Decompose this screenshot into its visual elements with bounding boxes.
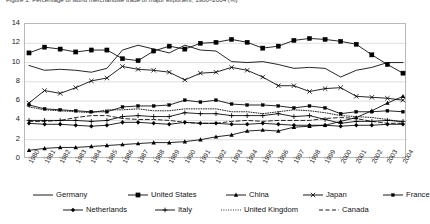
data-point-marker [74,85,78,89]
data-point-marker [58,122,62,127]
x-axis: 1980198119821983198419851986198719881989… [0,158,416,188]
legend-line-sample [225,190,247,200]
data-point-marker [385,122,389,127]
plot-area [24,23,406,158]
data-point-marker [74,50,78,54]
data-point-marker [355,110,358,113]
data-point-marker [401,94,405,98]
y-tick-label: 6 [2,96,20,104]
data-point-marker [229,122,233,127]
data-point-marker [198,41,202,45]
data-point-marker [308,104,311,107]
y-tick-label: 12 [2,38,20,46]
legend-item-japan[interactable]: Japan [302,188,347,202]
data-point-marker [339,112,342,115]
legend-label: Italy [178,205,192,215]
legend-row-2: NetherlandsItalyUnited KingdomCanada [0,203,416,217]
legend-line-sample [302,190,324,200]
data-point-marker [74,123,78,128]
legend-item-france[interactable]: France [382,188,430,202]
data-point-marker [276,122,280,127]
legend-label: Japan [326,190,347,200]
data-point-marker [89,124,93,129]
y-tick-label: 14 [2,19,20,27]
data-point-marker [245,40,249,44]
data-point-marker [323,117,328,122]
data-point-marker [229,37,233,41]
data-point-marker [307,113,312,118]
data-point-marker [245,113,250,118]
y-tick-label: 4 [2,115,20,123]
data-point-marker [339,39,343,43]
data-point-marker [245,122,249,127]
plot-svg [25,24,407,159]
data-point-marker [323,37,327,41]
data-point-marker [167,122,171,127]
data-point-marker [401,71,405,75]
legend-line-sample [127,190,149,200]
data-point-marker [354,123,358,128]
data-point-marker [261,104,264,107]
data-point-marker [292,38,296,42]
data-point-marker [307,36,311,40]
data-point-marker [214,121,218,126]
data-point-marker [120,57,124,61]
data-point-marker [182,110,187,115]
legend-line-sample [154,205,176,215]
data-point-marker [339,124,343,129]
data-point-marker [136,113,141,118]
data-point-marker [105,123,109,128]
data-point-marker [230,103,233,106]
data-point-marker [386,109,389,112]
data-point-marker [261,75,265,79]
legend-item-united-states[interactable]: United States [127,188,197,202]
data-point-marker [105,110,108,113]
y-tick-label: 2 [2,135,20,143]
data-point-marker [42,45,46,49]
legend-item-netherlands[interactable]: Netherlands [62,203,127,217]
data-point-marker [260,113,265,118]
data-point-marker [402,110,405,113]
legend-label: Netherlands [86,205,127,215]
series-united-states [27,36,405,75]
legend-item-canada[interactable]: Canada [318,203,369,217]
legend-item-germany[interactable]: Germany [32,188,87,202]
data-point-marker [370,53,374,57]
y-tick-label: 10 [2,58,20,66]
data-point-marker [354,42,358,46]
y-tick-label: 8 [2,77,20,85]
data-point-marker [277,104,280,107]
chart-title: Figure 1: Percentage of world merchandis… [6,0,410,4]
legend-row-1: GermanyUnited StatesChinaJapanFrance [0,188,416,202]
data-point-marker [105,48,109,52]
data-point-marker [183,47,187,51]
chart-legend: GermanyUnited StatesChinaJapanFrance Net… [0,186,416,224]
data-point-marker [246,104,249,107]
legend-label: United Kingdom [244,205,298,215]
data-point-marker [89,48,93,52]
data-point-marker [261,46,265,50]
legend-label: Canada [342,205,369,215]
data-point-marker [168,104,171,107]
data-point-marker [198,121,202,126]
data-point-marker [152,121,156,126]
legend-item-italy[interactable]: Italy [154,203,192,217]
data-point-marker [163,208,168,213]
data-point-marker [58,47,62,51]
legend-item-united-kingdom[interactable]: United Kingdom [220,203,298,217]
data-point-marker [137,104,140,107]
data-point-marker [276,44,280,48]
legend-line-sample [220,205,242,215]
data-point-marker [276,111,281,116]
legend-item-china[interactable]: China [225,188,269,202]
data-point-marker [324,106,327,109]
data-point-marker [401,122,405,127]
data-point-marker [73,118,78,123]
data-point-marker [292,114,297,119]
data-point-marker [198,111,203,116]
data-point-marker [167,44,171,48]
data-point-marker [183,99,186,102]
legend-line-sample [382,190,404,200]
data-point-marker [42,122,46,127]
